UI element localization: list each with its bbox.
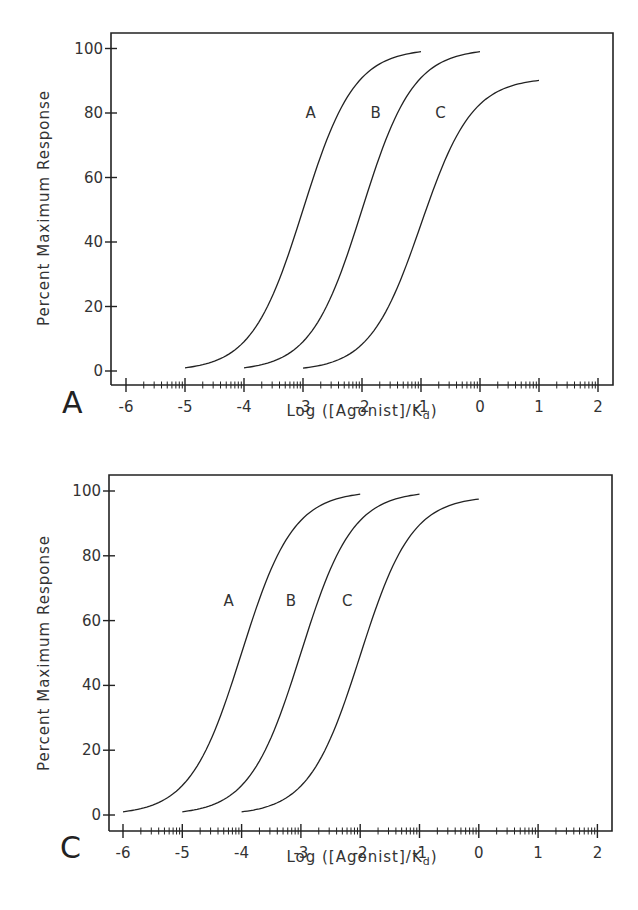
curve-label-a: A — [306, 104, 317, 122]
y-tick-label: 80 — [84, 104, 103, 122]
curve-c — [303, 80, 539, 368]
x-axis-label-main: Log ([Agonist]/K — [286, 402, 422, 420]
x-tick-label: 1 — [534, 398, 544, 416]
y-axis-label: Percent Maximum Response — [35, 535, 53, 771]
y-tick-label: 40 — [82, 676, 101, 694]
curve-label-c: C — [342, 592, 352, 610]
x-tick-label: -5 — [175, 844, 190, 862]
x-tick-label: -5 — [178, 398, 193, 416]
curve-b — [182, 494, 419, 812]
x-axis-label: Log ([Agonist]/Kd) — [286, 848, 437, 868]
x-axis-label: Log ([Agonist]/Kd) — [286, 402, 437, 422]
x-tick-label: -4 — [234, 844, 249, 862]
x-tick-label: 2 — [593, 398, 603, 416]
x-axis-label-close: ) — [431, 402, 438, 420]
x-tick-label: -4 — [237, 398, 252, 416]
x-tick-label: 2 — [593, 844, 603, 862]
y-tick-label: 20 — [82, 741, 101, 759]
x-tick-label: -6 — [116, 844, 131, 862]
x-tick-label: 1 — [533, 844, 543, 862]
y-axis-label: Percent Maximum Response — [35, 90, 53, 326]
panel-c: 020406080100-6-5-4-3-2-1012ABC Percent M… — [0, 455, 638, 910]
x-tick-label: 0 — [475, 398, 485, 416]
curve-a — [185, 52, 421, 368]
panel-letter: C — [60, 830, 81, 865]
x-tick-label: 0 — [474, 844, 484, 862]
panel-a: 020406080100-6-5-4-3-2-1012ABC Percent M… — [0, 0, 638, 455]
dose-response-chart-a: 020406080100-6-5-4-3-2-1012ABC — [0, 0, 638, 455]
x-tick-label: -6 — [119, 398, 134, 416]
y-tick-label: 40 — [84, 233, 103, 251]
y-tick-label: 100 — [72, 482, 101, 500]
y-tick-label: 60 — [84, 169, 103, 187]
curve-label-a: A — [224, 592, 235, 610]
x-axis-label-close: ) — [431, 848, 438, 866]
y-tick-label: 100 — [74, 40, 103, 58]
curve-label-b: B — [370, 104, 380, 122]
curve-label-b: B — [286, 592, 296, 610]
dose-response-chart-c: 020406080100-6-5-4-3-2-1012ABC — [0, 455, 638, 910]
curve-label-c: C — [435, 104, 445, 122]
y-tick-label: 0 — [91, 806, 101, 824]
curve-a — [123, 494, 360, 812]
y-tick-label: 80 — [82, 547, 101, 565]
panel-letter: A — [62, 385, 83, 420]
y-tick-label: 60 — [82, 612, 101, 630]
curve-c — [242, 499, 479, 812]
y-tick-label: 20 — [84, 298, 103, 316]
y-tick-label: 0 — [93, 362, 103, 380]
x-axis-label-main: Log ([Agonist]/K — [286, 848, 422, 866]
curve-b — [244, 52, 480, 368]
